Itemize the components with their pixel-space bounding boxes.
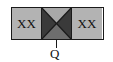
left-cell: XX <box>12 8 42 39</box>
crossover-cell <box>42 8 71 39</box>
bus-symbol: XX XX <box>11 7 104 40</box>
right-cell-label: XX <box>78 16 97 32</box>
right-cell: XX <box>71 8 102 39</box>
left-cell-label: XX <box>17 16 36 32</box>
output-label: Q <box>50 46 59 62</box>
crossover-x-icon <box>42 8 71 39</box>
